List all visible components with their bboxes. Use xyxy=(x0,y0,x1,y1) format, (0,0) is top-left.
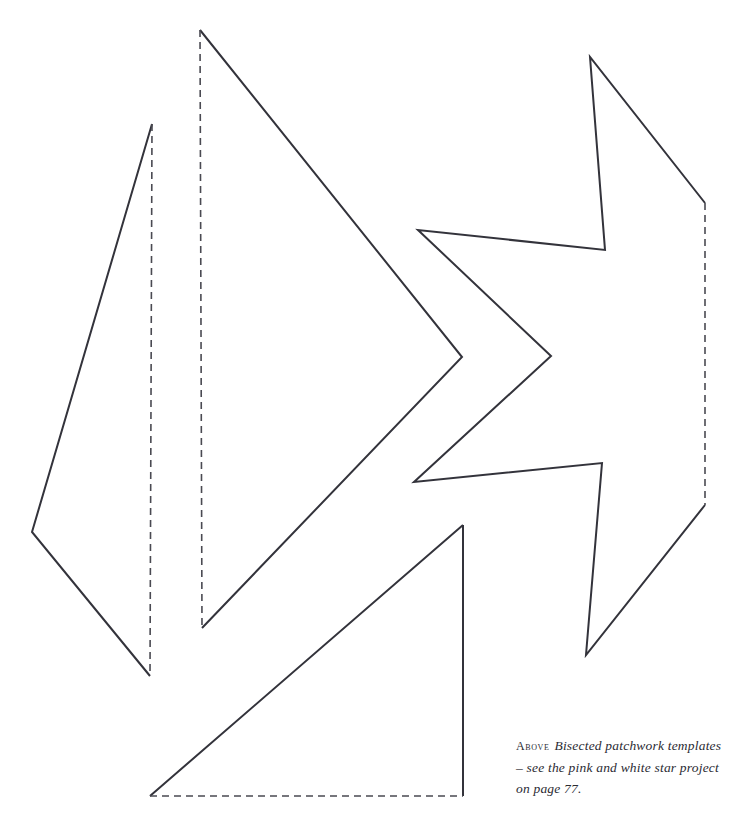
patchwork-templates-diagram xyxy=(0,0,744,824)
right-star-half-template xyxy=(414,57,705,655)
middle-triangle-solid-outline xyxy=(200,30,462,628)
right-star-half-solid-outline xyxy=(414,57,705,655)
left-kite-fold-line-dashed xyxy=(150,124,152,676)
caption-line-2: – see the pink and white star project xyxy=(516,757,730,778)
page-canvas: AboveBisected patchwork templates – see … xyxy=(0,0,744,824)
left-kite-solid-outline xyxy=(32,124,152,676)
caption-line-1: AboveBisected patchwork templates xyxy=(516,735,730,757)
bottom-triangle-solid-outline xyxy=(150,525,463,796)
middle-triangle-template xyxy=(200,30,462,628)
middle-triangle-fold-line-dashed xyxy=(200,30,202,628)
caption-text-1: Bisected patchwork templates xyxy=(554,738,721,753)
figure-caption: AboveBisected patchwork templates – see … xyxy=(516,735,730,799)
caption-line-3: on page 77. xyxy=(516,778,730,799)
left-kite-template xyxy=(32,124,152,676)
bottom-triangle-template xyxy=(150,525,463,796)
caption-above-label: Above xyxy=(516,739,554,753)
